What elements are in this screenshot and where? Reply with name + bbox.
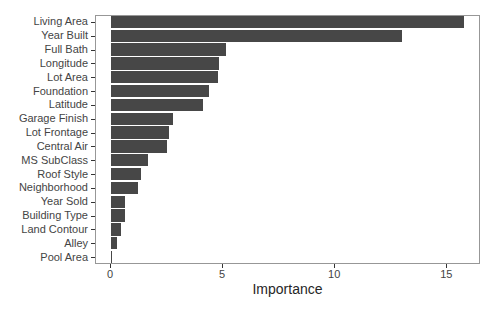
y-axis-label: Longitude	[0, 58, 88, 69]
y-axis-label: Roof Style	[0, 169, 88, 180]
bar-row	[111, 57, 219, 69]
bar-row	[111, 154, 148, 166]
y-tick-mark	[91, 146, 95, 147]
y-axis-label: Building Type	[0, 210, 88, 221]
bar-row	[111, 140, 167, 152]
bar	[111, 209, 125, 221]
bar-row	[111, 237, 117, 249]
y-tick-mark	[91, 105, 95, 106]
y-tick-mark	[91, 160, 95, 161]
bar-row	[111, 209, 125, 221]
y-axis-label: MS SubClass	[0, 155, 88, 166]
y-tick-mark	[91, 257, 95, 258]
y-tick-mark	[91, 216, 95, 217]
bar-row	[111, 85, 209, 97]
bar-row	[111, 43, 226, 55]
y-tick-mark	[91, 22, 95, 23]
x-axis-title: Importance	[95, 281, 480, 297]
x-tick-label: 10	[319, 268, 349, 280]
y-tick-mark	[91, 229, 95, 230]
x-tick-label: 15	[431, 268, 461, 280]
bar	[111, 251, 112, 263]
bar	[111, 182, 138, 194]
bar-row	[111, 196, 125, 208]
bar-row	[111, 251, 112, 263]
bar	[111, 85, 209, 97]
bar	[111, 168, 141, 180]
y-axis-label: Latitude	[0, 99, 88, 110]
x-tick-label: 5	[207, 268, 237, 280]
bar	[111, 57, 219, 69]
y-axis-label: Year Sold	[0, 196, 88, 207]
bar	[111, 223, 121, 235]
y-axis-labels: Living AreaYear BuiltFull BathLongitudeL…	[0, 15, 88, 264]
bar	[111, 113, 173, 125]
y-tick-mark	[91, 174, 95, 175]
bar	[111, 196, 125, 208]
y-tick-mark	[91, 202, 95, 203]
y-tick-mark	[91, 188, 95, 189]
bar	[111, 154, 148, 166]
feature-importance-bar-chart: Living AreaYear BuiltFull BathLongitudeL…	[0, 0, 504, 313]
plot-panel	[95, 15, 480, 264]
bar	[111, 140, 167, 152]
y-tick-mark	[91, 36, 95, 37]
y-axis-label: Year Built	[0, 30, 88, 41]
bar	[111, 71, 218, 83]
bar-row	[111, 182, 138, 194]
bar-row	[111, 113, 173, 125]
y-axis-label: Garage Finish	[0, 113, 88, 124]
y-tick-mark	[91, 91, 95, 92]
bar-row	[111, 223, 121, 235]
bar-row	[111, 126, 169, 138]
y-axis-label: Pool Area	[0, 252, 88, 263]
y-axis-label: Alley	[0, 238, 88, 249]
y-tick-mark	[91, 63, 95, 64]
y-tick-mark	[91, 119, 95, 120]
x-tick-label: 0	[95, 268, 125, 280]
y-axis-label: Land Contour	[0, 224, 88, 235]
y-axis-label: Foundation	[0, 86, 88, 97]
y-tick-mark	[91, 133, 95, 134]
y-axis-label: Central Air	[0, 141, 88, 152]
bar	[111, 30, 402, 42]
bar	[111, 126, 169, 138]
y-tick-mark	[91, 50, 95, 51]
y-axis-label: Full Bath	[0, 44, 88, 55]
bar	[111, 237, 117, 249]
bar-row	[111, 16, 464, 28]
y-axis-label: Living Area	[0, 16, 88, 27]
y-tick-mark	[91, 77, 95, 78]
bar	[111, 16, 464, 28]
y-axis-label: Neighborhood	[0, 182, 88, 193]
bar-row	[111, 99, 203, 111]
bar-row	[111, 71, 218, 83]
bar	[111, 43, 226, 55]
bar-row	[111, 30, 402, 42]
y-axis-label: Lot Area	[0, 72, 88, 83]
y-axis-label: Lot Frontage	[0, 127, 88, 138]
bar-row	[111, 168, 141, 180]
bar	[111, 99, 203, 111]
y-tick-mark	[91, 243, 95, 244]
